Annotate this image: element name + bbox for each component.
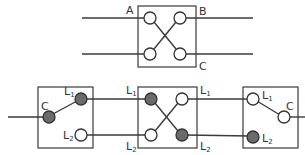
top-terminal-c	[174, 48, 186, 60]
top-intermediate-switch: A B C	[82, 4, 253, 73]
wire-l2-middle-right	[186, 135, 249, 136]
right-terminal-l1	[247, 93, 259, 105]
right-label-c: C	[286, 100, 294, 113]
middle-intermediate-switch: L1 L2 L1 L2	[126, 84, 211, 154]
middle-terminal-left-l1	[145, 93, 157, 105]
middle-label-left-l1: L1	[126, 84, 137, 98]
right-switch-lever	[257, 101, 280, 115]
top-terminal-lower-left	[144, 48, 156, 60]
left-switch-lever	[53, 101, 77, 114]
label-c: C	[199, 60, 207, 73]
right-label-l2: L2	[262, 132, 273, 146]
left-terminal-l1	[75, 93, 87, 105]
middle-label-right-l1: L1	[200, 84, 211, 98]
switch-wiring-diagram: A B C C L1 L2 L1 L2 L1 L2	[0, 0, 305, 155]
left-label-c: C	[41, 100, 49, 113]
right-terminal-l2	[247, 131, 259, 143]
left-two-way-switch: C L1 L2	[38, 85, 93, 148]
right-two-way-switch: L1 C L2	[243, 87, 298, 148]
middle-terminal-right-l1	[176, 93, 188, 105]
middle-terminal-right-l2	[176, 129, 188, 141]
middle-label-right-l2: L2	[200, 140, 211, 154]
left-terminal-l2	[75, 129, 87, 141]
middle-terminal-left-l2	[145, 129, 157, 141]
top-terminal-b	[174, 12, 186, 24]
top-terminal-a	[144, 12, 156, 24]
left-label-l2: L2	[63, 129, 74, 143]
right-label-l1: L1	[262, 89, 273, 103]
middle-label-left-l2: L2	[126, 140, 137, 154]
label-a: A	[126, 4, 134, 17]
label-b: B	[199, 5, 207, 18]
